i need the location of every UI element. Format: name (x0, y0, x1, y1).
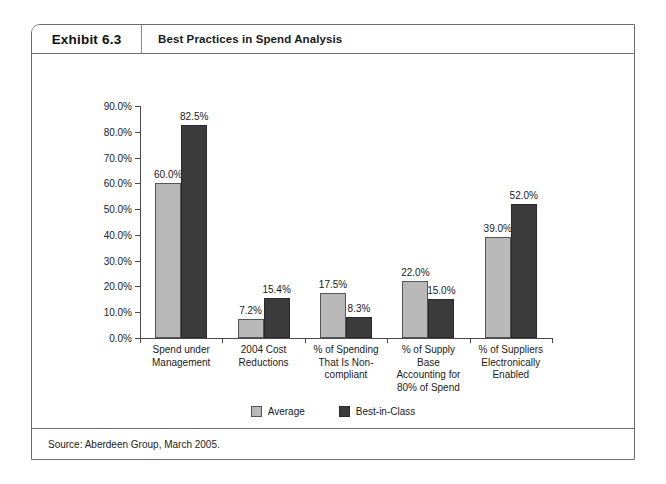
category-label-line: Enabled (465, 369, 557, 382)
category-label-line: Base (382, 357, 474, 370)
y-axis-tick-label: 10.0% (104, 307, 132, 318)
y-axis-tick (135, 286, 140, 287)
x-axis-tick (305, 338, 306, 343)
category-label-line: Electronically (465, 357, 557, 370)
category-label-line: % of Supply (382, 344, 474, 357)
category-label-line: % of Suppliers (465, 344, 557, 357)
bar-value-label: 22.0% (401, 267, 429, 278)
bar-chart-plot: 0.0%10.0%20.0%30.0%40.0%50.0%60.0%70.0%8… (140, 106, 552, 368)
bar-average[interactable] (485, 237, 511, 338)
bar-best-in-class[interactable] (511, 204, 537, 338)
legend-swatch-best-in-class (339, 406, 350, 417)
x-axis-tick (470, 338, 471, 343)
y-axis-tick-label: 60.0% (104, 178, 132, 189)
y-axis-tick-label: 30.0% (104, 255, 132, 266)
category-label-line: 2004 Cost (218, 344, 310, 357)
bar-value-label: 15.0% (427, 285, 455, 296)
x-axis-category-label: 2004 CostReductions (218, 344, 310, 369)
x-axis-tick (552, 338, 553, 343)
y-axis-tick (135, 158, 140, 159)
x-axis-tick (387, 338, 388, 343)
y-axis-tick (135, 183, 140, 184)
legend-label: Average (268, 406, 305, 417)
bar-value-label: 17.5% (319, 279, 347, 290)
bar-average[interactable] (155, 183, 181, 338)
y-axis-tick (135, 312, 140, 313)
y-axis-tick-label: 50.0% (104, 204, 132, 215)
source-note: Source: Aberdeen Group, March 2005. (48, 439, 220, 450)
x-axis-category-label: % of SpendingThat Is Non-compliant (300, 344, 392, 382)
y-axis-tick-label: 0.0% (109, 333, 132, 344)
bar-value-label: 15.4% (262, 284, 290, 295)
chart-legend: AverageBest-in-Class (32, 406, 634, 417)
category-label-line: That Is Non- (300, 357, 392, 370)
exhibit-footer: Source: Aberdeen Group, March 2005. (32, 428, 634, 459)
x-axis-line (140, 338, 552, 339)
bar-average[interactable] (320, 293, 346, 338)
legend-item-average[interactable]: Average (251, 406, 305, 417)
bar-best-in-class[interactable] (428, 299, 454, 338)
y-axis-tick-label: 20.0% (104, 281, 132, 292)
y-axis-tick (135, 132, 140, 133)
x-axis-tick (140, 338, 141, 343)
y-axis-tick (135, 261, 140, 262)
category-label-line: Spend under (135, 344, 227, 357)
y-axis-line (140, 106, 141, 339)
bar-value-label: 52.0% (510, 190, 538, 201)
y-axis-tick-label: 40.0% (104, 229, 132, 240)
y-axis-tick (135, 209, 140, 210)
category-label-line: Reductions (218, 357, 310, 370)
bar-best-in-class[interactable] (264, 298, 290, 338)
legend-swatch-average (251, 406, 262, 417)
category-label-line: % of Spending (300, 344, 392, 357)
bar-value-label: 8.3% (348, 303, 371, 314)
exhibit-frame: Exhibit 6.3 Best Practices in Spend Anal… (31, 24, 635, 460)
y-axis-tick-label: 70.0% (104, 152, 132, 163)
exhibit-number: Exhibit 6.3 (32, 25, 142, 53)
exhibit-title: Best Practices in Spend Analysis (142, 25, 634, 53)
bar-best-in-class[interactable] (181, 125, 207, 338)
legend-label: Best-in-Class (356, 406, 415, 417)
bar-average[interactable] (402, 281, 428, 338)
y-axis-tick-label: 90.0% (104, 101, 132, 112)
x-axis-category-label: % of SuppliersElectronicallyEnabled (465, 344, 557, 382)
bar-value-label: 39.0% (484, 223, 512, 234)
x-axis-tick (222, 338, 223, 343)
category-label-line: Management (135, 357, 227, 370)
x-axis-category-label: Spend underManagement (135, 344, 227, 369)
bar-value-label: 7.2% (239, 305, 262, 316)
y-axis-tick (135, 235, 140, 236)
bar-average[interactable] (238, 319, 264, 338)
category-label-line: 80% of Spend (382, 382, 474, 395)
category-label-line: Accounting for (382, 369, 474, 382)
x-axis-category-label: % of SupplyBaseAccounting for80% of Spen… (382, 344, 474, 394)
chart-area: 0.0%10.0%20.0%30.0%40.0%50.0%60.0%70.0%8… (32, 54, 634, 428)
y-axis-tick-label: 80.0% (104, 126, 132, 137)
legend-item-best-in-class[interactable]: Best-in-Class (339, 406, 415, 417)
bar-best-in-class[interactable] (346, 317, 372, 338)
bar-value-label: 60.0% (154, 169, 182, 180)
bar-value-label: 82.5% (180, 111, 208, 122)
y-axis-tick (135, 106, 140, 107)
category-label-line: compliant (300, 369, 392, 382)
exhibit-header: Exhibit 6.3 Best Practices in Spend Anal… (32, 25, 634, 54)
